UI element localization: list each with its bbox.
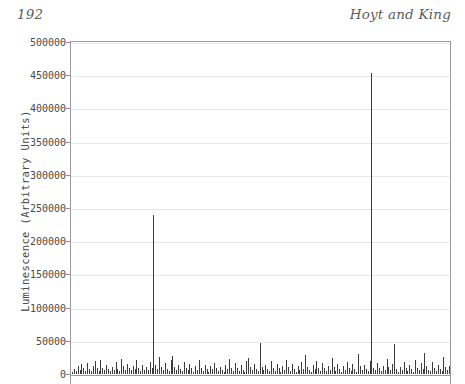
bar <box>157 369 158 374</box>
bar <box>191 368 192 374</box>
bar <box>419 370 420 374</box>
y-tick-label: 250000 <box>0 203 66 214</box>
bar <box>349 368 350 374</box>
bar <box>169 371 170 374</box>
bar <box>188 370 189 374</box>
bar <box>256 369 257 374</box>
bar <box>432 362 433 374</box>
bar <box>114 370 115 374</box>
bar <box>320 371 321 374</box>
bar <box>447 370 448 374</box>
bar <box>387 359 388 374</box>
bar <box>208 372 209 374</box>
bar <box>203 371 204 374</box>
bar <box>100 360 101 374</box>
bar <box>186 368 187 374</box>
bar <box>243 370 244 374</box>
bar <box>347 362 348 374</box>
bar <box>246 361 247 374</box>
bar <box>148 370 149 374</box>
bar <box>316 361 317 374</box>
bar <box>89 369 90 374</box>
bar <box>396 369 397 374</box>
bar <box>260 343 261 374</box>
bar <box>370 361 371 374</box>
bar <box>440 369 441 374</box>
bar <box>292 364 293 374</box>
bar <box>254 364 255 374</box>
bar <box>371 73 372 374</box>
bar <box>93 366 94 374</box>
luminescence-bar-chart: Luminescence (Arbitrary Units) 500000450… <box>0 30 465 384</box>
bar <box>108 369 109 374</box>
bar <box>72 372 73 374</box>
bar <box>110 371 111 374</box>
bar <box>74 369 75 374</box>
bar <box>171 360 172 374</box>
bar <box>400 367 401 375</box>
bar <box>307 367 308 374</box>
bar <box>421 363 422 374</box>
bar <box>131 370 132 374</box>
bar <box>366 369 367 374</box>
bar <box>277 364 278 374</box>
bar <box>133 366 134 374</box>
bar <box>354 369 355 375</box>
bar <box>178 365 179 374</box>
y-tick-label: 350000 <box>0 136 66 147</box>
bar <box>267 369 268 374</box>
y-tick-label: 400000 <box>0 103 66 114</box>
bar <box>117 369 118 375</box>
bar <box>284 370 285 374</box>
bar <box>364 365 365 374</box>
y-tick-label: 200000 <box>0 236 66 247</box>
bar <box>335 371 336 374</box>
bar <box>195 366 196 374</box>
bar <box>182 371 183 374</box>
bar <box>97 368 98 374</box>
bar <box>263 370 264 374</box>
y-tick-label: 50000 <box>0 335 66 346</box>
bar <box>449 366 450 374</box>
bar-series <box>71 41 450 374</box>
bar <box>265 365 266 374</box>
bar <box>189 364 190 374</box>
page-number: 192 <box>17 6 43 22</box>
bar <box>146 367 147 374</box>
bar <box>311 372 312 374</box>
bar <box>167 369 168 374</box>
bar <box>83 368 84 374</box>
bar <box>398 372 399 374</box>
bar <box>102 368 103 375</box>
bar <box>362 370 363 374</box>
bar <box>80 370 81 374</box>
bar <box>337 364 338 374</box>
bar <box>104 370 105 374</box>
bar <box>443 357 444 374</box>
bar <box>153 215 154 374</box>
bar <box>423 369 424 374</box>
bar <box>184 362 185 374</box>
bar <box>269 371 270 374</box>
bar <box>341 372 342 374</box>
bar <box>129 368 130 374</box>
bar <box>205 365 206 374</box>
bar <box>138 368 139 374</box>
bar <box>415 360 416 374</box>
bar <box>76 371 77 374</box>
bar <box>212 369 213 374</box>
bar <box>390 370 391 374</box>
bar <box>406 368 407 374</box>
bar <box>417 368 418 375</box>
bar <box>165 363 166 374</box>
bar <box>161 367 162 374</box>
bar <box>180 369 181 374</box>
y-tick-label: 500000 <box>0 37 66 48</box>
bar <box>140 371 141 374</box>
y-tick-label: 450000 <box>0 70 66 81</box>
bar <box>280 372 281 374</box>
bar <box>214 363 215 374</box>
bar <box>438 365 439 374</box>
baseline-axis <box>71 375 450 376</box>
bar <box>404 362 405 374</box>
